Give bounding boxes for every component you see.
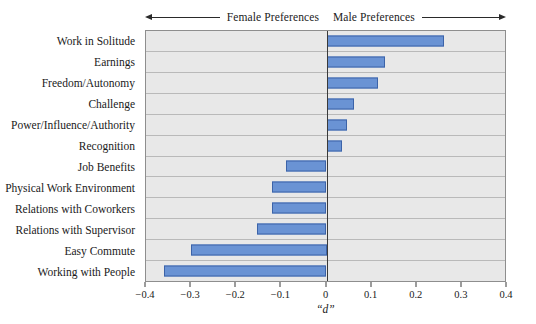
- bar-row: [146, 52, 505, 73]
- preference-direction-header: Female Preferences Male Preferences: [145, 6, 506, 28]
- axis-tick-label: −0.4: [135, 289, 154, 300]
- axis-tick-label: −0.1: [271, 289, 290, 300]
- value-axis: −0.4−0.3−0.2−0.100.10.20.30.4: [145, 282, 506, 283]
- category-label: Relations with Coworkers: [0, 198, 140, 219]
- category-label: Working with People: [0, 261, 140, 282]
- bar-row: [146, 31, 505, 52]
- bar[interactable]: [327, 77, 379, 88]
- bar-row: [146, 198, 505, 219]
- bar[interactable]: [257, 224, 327, 235]
- bar[interactable]: [286, 161, 327, 172]
- axis-tick: [506, 282, 507, 287]
- male-arrow-line: [422, 17, 499, 18]
- bar-row: [146, 157, 505, 178]
- bar[interactable]: [327, 119, 347, 130]
- axis-tick-label: 0.4: [499, 289, 512, 300]
- male-preferences-label: Male Preferences: [326, 11, 422, 23]
- bar[interactable]: [164, 266, 326, 277]
- bar-row: [146, 219, 505, 240]
- plot-area: [145, 30, 506, 282]
- axis-tick-label: 0.3: [454, 289, 467, 300]
- bar-row: [146, 261, 505, 281]
- axis-tick: [460, 282, 461, 287]
- bar-row: [146, 136, 505, 157]
- category-axis-labels: Work in SolitudeEarningsFreedom/Autonomy…: [0, 30, 140, 282]
- category-label: Job Benefits: [0, 156, 140, 177]
- female-preferences-label: Female Preferences: [220, 11, 326, 23]
- category-label: Power/Influence/Authority: [0, 114, 140, 135]
- category-label: Earnings: [0, 51, 140, 72]
- category-label: Recognition: [0, 135, 140, 156]
- axis-tick: [280, 282, 281, 287]
- bar[interactable]: [327, 35, 444, 46]
- bar[interactable]: [327, 98, 354, 109]
- category-label: Relations with Supervisor: [0, 219, 140, 240]
- axis-tick: [190, 282, 191, 287]
- category-label: Freedom/Autonomy: [0, 72, 140, 93]
- arrow-right-icon: [499, 14, 506, 20]
- male-preferences-annotation: Male Preferences: [326, 6, 506, 28]
- axis-tick-label: 0.1: [364, 289, 377, 300]
- chart-root: Female Preferences Male Preferences Work…: [0, 0, 536, 324]
- category-label: Challenge: [0, 93, 140, 114]
- bar[interactable]: [327, 56, 386, 67]
- axis-tick-label: 0.2: [409, 289, 422, 300]
- bar-row: [146, 177, 505, 198]
- bar[interactable]: [272, 203, 326, 214]
- axis-tick: [235, 282, 236, 287]
- female-arrow-line: [152, 17, 220, 18]
- axis-tick-label: −0.2: [226, 289, 245, 300]
- bar-row: [146, 73, 505, 94]
- category-label: Work in Solitude: [0, 30, 140, 51]
- bar[interactable]: [272, 182, 326, 193]
- zero-reference-line: [327, 31, 328, 281]
- bar-rows: [146, 31, 505, 281]
- axis-tick: [325, 282, 326, 287]
- female-preferences-annotation: Female Preferences: [145, 6, 326, 28]
- axis-tick: [415, 282, 416, 287]
- bar[interactable]: [191, 245, 326, 256]
- bar-row: [146, 94, 505, 115]
- arrow-left-icon: [145, 14, 152, 20]
- bar[interactable]: [327, 140, 343, 151]
- category-label: Physical Work Environment: [0, 177, 140, 198]
- axis-tick: [370, 282, 371, 287]
- axis-tick-label: −0.3: [181, 289, 200, 300]
- axis-tick-label: 0: [323, 289, 328, 300]
- axis-tick: [145, 282, 146, 287]
- axis-title: “d”: [145, 303, 506, 315]
- bar-row: [146, 115, 505, 136]
- bar-row: [146, 240, 505, 261]
- category-label: Easy Commute: [0, 240, 140, 261]
